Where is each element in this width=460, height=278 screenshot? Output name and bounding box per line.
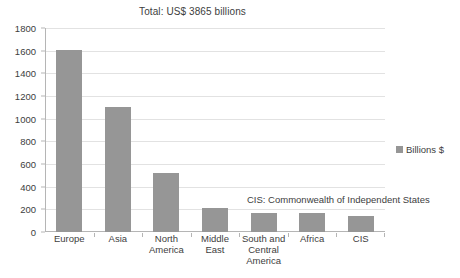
bar[interactable] <box>105 107 131 232</box>
y-axis-tick-label: 200 <box>20 204 36 215</box>
chart-legend: Billions $ <box>396 144 444 155</box>
y-axis-tick-label: 1800 <box>15 23 36 34</box>
bar-slot <box>45 28 94 232</box>
x-axis-category-label: Africa <box>288 233 337 244</box>
x-axis-tick-mark <box>288 233 289 237</box>
x-axis-category-label: Asia <box>94 233 143 244</box>
x-axis-category-label: South andCentralAmerica <box>239 233 288 266</box>
x-axis-tick-mark <box>384 233 385 237</box>
bar-slot <box>191 28 240 232</box>
x-axis-category-label: CIS <box>336 233 385 244</box>
bar[interactable] <box>202 208 228 232</box>
y-axis-tick-label: 1000 <box>15 113 36 124</box>
x-axis-category-label: NorthAmerica <box>142 233 191 255</box>
y-axis-tick-label: 1200 <box>15 91 36 102</box>
bar[interactable] <box>153 173 179 232</box>
x-axis-category-label: Europe <box>45 233 94 244</box>
x-axis-tick-mark <box>336 233 337 237</box>
bar-slot <box>142 28 191 232</box>
x-axis-tick-mark <box>94 233 95 237</box>
x-axis: EuropeAsiaNorthAmericaMiddleEastSouth an… <box>45 233 385 278</box>
y-axis-tick-label: 800 <box>20 136 36 147</box>
legend-label-billions: Billions $ <box>406 144 444 155</box>
y-axis: 020040060080010001200140016001800 <box>0 28 41 232</box>
bar[interactable] <box>56 50 82 232</box>
x-axis-tick-mark <box>239 233 240 237</box>
bar[interactable] <box>251 213 277 232</box>
chart-title: Total: US$ 3865 billions <box>0 6 385 17</box>
y-axis-tick-label: 1600 <box>15 45 36 56</box>
legend-swatch-billions <box>396 146 403 153</box>
x-axis-tick-mark <box>142 233 143 237</box>
chart-annotation: CIS: Commonwealth of Independent States <box>247 194 430 205</box>
x-axis-tick-mark <box>191 233 192 237</box>
bar[interactable] <box>299 213 325 232</box>
bar-slot <box>94 28 143 232</box>
x-axis-category-label: MiddleEast <box>191 233 240 255</box>
bar[interactable] <box>348 216 374 232</box>
y-axis-tick-label: 600 <box>20 159 36 170</box>
y-axis-tick-label: 400 <box>20 181 36 192</box>
y-axis-tick-label: 1400 <box>15 68 36 79</box>
bar-chart: Total: US$ 3865 billions 020040060080010… <box>0 0 460 278</box>
y-axis-tick-label: 0 <box>31 227 36 238</box>
